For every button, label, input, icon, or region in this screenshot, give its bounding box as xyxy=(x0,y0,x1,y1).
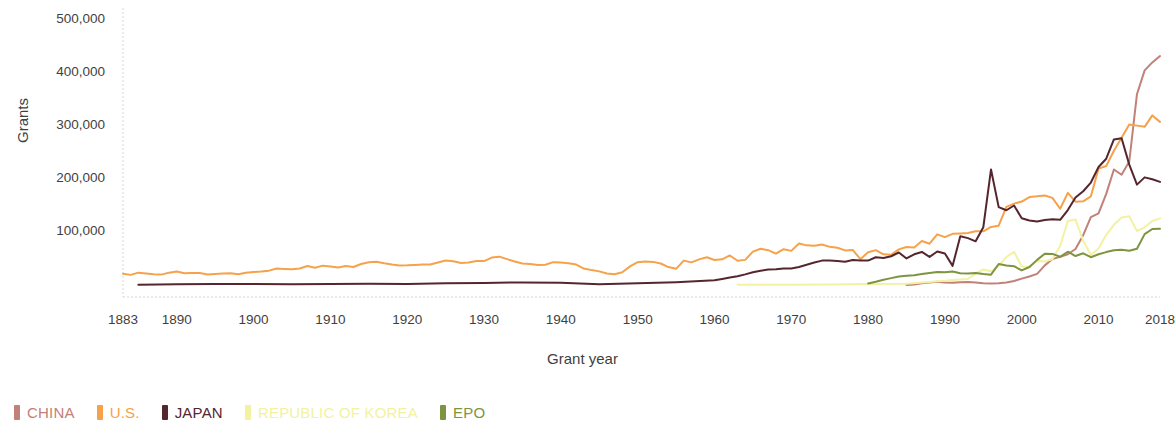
legend-swatch-icon xyxy=(162,405,168,420)
legend-swatch-icon xyxy=(14,405,20,420)
legend-item-u-s[interactable]: U.S. xyxy=(97,404,140,421)
legend-label: EPO xyxy=(453,404,485,421)
series-line-republic-of-korea xyxy=(738,216,1160,285)
legend-item-japan[interactable]: JAPAN xyxy=(162,404,223,421)
legend-item-epo[interactable]: EPO xyxy=(440,404,485,421)
legend-item-republic-of-korea[interactable]: REPUBLIC OF KOREA xyxy=(245,404,418,421)
legend-label: JAPAN xyxy=(175,404,223,421)
legend-swatch-icon xyxy=(245,405,251,420)
series-line-japan xyxy=(138,138,1160,285)
legend-label: REPUBLIC OF KOREA xyxy=(258,404,418,421)
series-line-u-s xyxy=(123,115,1160,274)
legend-item-china[interactable]: CHINA xyxy=(14,404,75,421)
legend-label: U.S. xyxy=(110,404,140,421)
legend-swatch-icon xyxy=(97,405,103,420)
legend-label: CHINA xyxy=(27,404,75,421)
chart-legend: CHINAU.S.JAPANREPUBLIC OF KOREAEPO xyxy=(14,404,485,421)
legend-swatch-icon xyxy=(440,405,446,420)
